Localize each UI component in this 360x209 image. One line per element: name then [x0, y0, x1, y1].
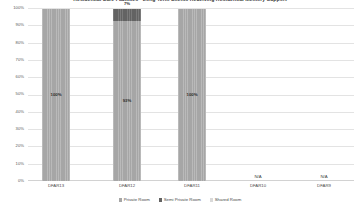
bar-group-dfar13[interactable]: 100% — [42, 8, 70, 181]
bar-group-dfar11[interactable]: 100% — [178, 8, 206, 181]
y-tick-0: 0% — [18, 179, 24, 183]
bar-segment-semi-dfar12[interactable] — [113, 9, 141, 21]
legend-label-semi-private: Semi Private Room — [164, 198, 201, 202]
legend-label-shared: Shared Room — [215, 198, 242, 202]
legend-item-semi-private[interactable]: Semi Private Room — [159, 198, 201, 202]
legend-item-private[interactable]: Private Room — [119, 198, 150, 202]
bar-label-private-dfar13: 100% — [51, 93, 62, 97]
bar-group-dfar12[interactable]: 7% 93% — [113, 8, 141, 181]
legend-swatch-private-icon — [119, 198, 122, 201]
bar-stack-dfar12[interactable]: 93% — [113, 9, 141, 181]
legend-label-private: Private Room — [124, 198, 150, 202]
y-tick-50: 50% — [16, 92, 24, 96]
chart-title: Residential Care Facilities - Long Term … — [0, 0, 360, 2]
bar-group-dfar10: N/A — [244, 8, 272, 181]
na-label-dfar9: N/A — [310, 175, 338, 179]
y-axis: 100% 90% 80% 70% 60% 50% 40% 30% 20% 10%… — [0, 8, 26, 181]
bar-label-private-dfar12: 93% — [123, 99, 132, 103]
bar-label-semi-dfar12: 7% — [113, 2, 141, 6]
bar-stack-dfar13[interactable]: 100% — [42, 9, 70, 181]
legend-swatch-semi-private-icon — [159, 198, 162, 201]
y-tick-60: 60% — [16, 75, 24, 79]
bar-segment-private-dfar12[interactable]: 93% — [113, 21, 141, 181]
legend-item-shared[interactable]: Shared Room — [210, 198, 242, 202]
y-tick-30: 30% — [16, 127, 24, 131]
stacked-bar-chart: Residential Care Facilities - Long Term … — [0, 0, 360, 209]
y-tick-20: 20% — [16, 144, 24, 148]
chart-legend: Private Room Semi Private Room Shared Ro… — [0, 198, 360, 202]
bar-segment-private-dfar13[interactable]: 100% — [42, 9, 70, 181]
bar-group-dfar9: N/A — [310, 8, 338, 181]
y-tick-10: 10% — [16, 162, 24, 166]
y-tick-100: 100% — [13, 6, 24, 10]
x-tick-dfar13: DFAR13 — [42, 184, 70, 188]
x-tick-dfar12: DFAR12 — [113, 184, 141, 188]
x-axis: DFAR13 DFAR12 DFAR11 DFAR10 DFAR9 — [28, 184, 354, 194]
y-tick-70: 70% — [16, 58, 24, 62]
bar-segment-private-dfar11[interactable]: 100% — [178, 9, 206, 181]
y-tick-90: 90% — [16, 23, 24, 27]
y-tick-80: 80% — [16, 41, 24, 45]
x-tick-dfar11: DFAR11 — [178, 184, 206, 188]
bar-label-private-dfar11: 100% — [187, 93, 198, 97]
na-label-dfar10: N/A — [244, 175, 272, 179]
legend-swatch-shared-icon — [210, 198, 213, 201]
x-tick-dfar10: DFAR10 — [244, 184, 272, 188]
x-tick-dfar9: DFAR9 — [310, 184, 338, 188]
y-tick-40: 40% — [16, 110, 24, 114]
bar-stack-dfar11[interactable]: 100% — [178, 9, 206, 181]
plot-area: 100% 7% 93% 100% N/A — [28, 8, 354, 181]
